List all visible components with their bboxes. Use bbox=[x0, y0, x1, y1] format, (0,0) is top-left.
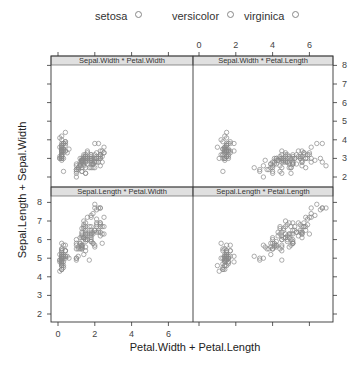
panel-bottom-left: Sepal.Length * Petal.Width bbox=[51, 187, 193, 273]
tick-label: 2 bbox=[233, 40, 238, 50]
open-circle-icon bbox=[292, 11, 299, 18]
tick-label: 4 bbox=[342, 135, 347, 145]
strip-label: Sepal.Width * Petal.Width bbox=[79, 56, 165, 65]
tick-label: 4 bbox=[129, 329, 134, 339]
strip-label: Sepal.Length * Petal.Length bbox=[216, 187, 309, 196]
tick-label: 8 bbox=[342, 60, 347, 70]
legend-label: versicolor bbox=[172, 10, 219, 22]
panel-top-right: Sepal.Width * Petal.Length bbox=[193, 56, 333, 179]
tick-label: 8 bbox=[37, 197, 42, 207]
tick-label: 0 bbox=[55, 329, 60, 339]
tick-label: 5 bbox=[37, 253, 42, 263]
tick-label: 4 bbox=[37, 272, 42, 282]
strip-label: Sepal.Length * Petal.Width bbox=[77, 187, 167, 196]
tick-label: 7 bbox=[37, 216, 42, 226]
tick-label: 6 bbox=[307, 40, 312, 50]
points bbox=[58, 130, 107, 179]
legend-label: virginica bbox=[244, 10, 284, 22]
x-axis-label: Petal.Width + Petal.Length bbox=[0, 341, 362, 353]
lattice-plot: Sepal.Width * Petal.WidthSepal.Width * P… bbox=[0, 0, 362, 371]
legend-label: setosa bbox=[95, 10, 127, 22]
tick-label: 5 bbox=[342, 116, 347, 126]
tick-label: 6 bbox=[342, 98, 347, 108]
tick-label: 4 bbox=[270, 40, 275, 50]
points bbox=[58, 202, 107, 273]
open-circle-icon bbox=[135, 11, 142, 18]
y-axis-label: Sepal.Length + Sepal.Width bbox=[16, 122, 28, 259]
tick-label: 2 bbox=[92, 329, 97, 339]
legend-item-setosa: setosa bbox=[95, 10, 142, 22]
open-circle-icon bbox=[227, 11, 234, 18]
tick-label: 6 bbox=[166, 329, 171, 339]
tick-label: 7 bbox=[342, 79, 347, 89]
tick-label: 3 bbox=[37, 290, 42, 300]
points bbox=[215, 202, 328, 273]
panel-top-left: Sepal.Width * Petal.Width bbox=[51, 56, 193, 179]
tick-label: 0 bbox=[196, 40, 201, 50]
tick-label: 6 bbox=[37, 235, 42, 245]
panel-bottom-right: Sepal.Length * Petal.Length bbox=[193, 187, 333, 273]
points bbox=[215, 130, 328, 179]
strip-label: Sepal.Width * Petal.Length bbox=[218, 56, 308, 65]
tick-label: 2 bbox=[342, 172, 347, 182]
legend-item-versicolor: versicolor bbox=[172, 10, 234, 22]
legend: setosa versicolor virginica bbox=[0, 10, 362, 26]
tick-label: 3 bbox=[342, 153, 347, 163]
tick-label: 2 bbox=[37, 309, 42, 319]
legend-item-virginica: virginica bbox=[244, 10, 299, 22]
